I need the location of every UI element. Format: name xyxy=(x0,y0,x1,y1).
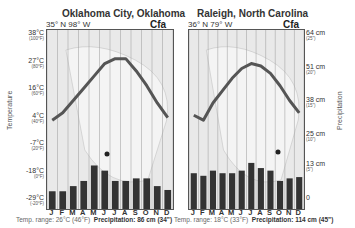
precipitation-tick: 25 cm(10") xyxy=(306,130,325,142)
coordinates: 36° N 79° W xyxy=(188,20,232,29)
precipitation-bar xyxy=(277,181,283,209)
precipitation-bar xyxy=(59,191,66,209)
temperature-tick: 27°C(80°F) xyxy=(14,57,44,69)
precipitation-bar xyxy=(154,186,161,209)
temperature-tick: 38°C(100°F) xyxy=(14,29,44,41)
precipitation-bar xyxy=(296,177,302,209)
precipitation-bar xyxy=(112,181,119,209)
temperature-axis-label: Temperature xyxy=(6,91,13,130)
plot-svg xyxy=(189,30,304,209)
temperature-tick: -29°C(-20°F) xyxy=(14,194,44,206)
precipitation-bar xyxy=(191,173,197,209)
precipitation-bar xyxy=(200,176,206,209)
chart-title: Raleigh, North Carolina xyxy=(197,8,308,19)
city-marker xyxy=(105,152,110,157)
precipitation-bar xyxy=(91,165,98,209)
temp-range-label: Temp. range: 26°C (46°F) Precipitation: … xyxy=(16,216,172,223)
precipitation-bar xyxy=(80,181,87,209)
plot-area xyxy=(46,29,174,210)
precipitation-bar xyxy=(143,178,150,209)
precipitation-bar xyxy=(164,190,171,209)
precipitation-bar xyxy=(248,163,254,209)
precipitation-total: Precipitation: 86 cm (34") xyxy=(94,216,172,223)
precipitation-bar xyxy=(70,186,77,209)
precipitation-bar xyxy=(229,173,235,209)
temperature-tick: 4°C(40°F) xyxy=(14,112,44,124)
plot-svg xyxy=(47,30,173,209)
precipitation-bar xyxy=(267,171,273,209)
plot-area xyxy=(188,29,305,210)
precipitation-bar xyxy=(258,168,264,209)
precipitation-bar xyxy=(219,173,225,209)
city-marker xyxy=(276,150,281,155)
precipitation-bar xyxy=(287,178,293,209)
precipitation-tick: 13 cm(5") xyxy=(306,160,325,172)
temperature-tick: -18°C(0°F) xyxy=(14,167,44,179)
precipitation-axis-label: Precipitation xyxy=(336,91,343,130)
temperature-tick: -7°C(20°F) xyxy=(14,139,44,151)
precipitation-bar xyxy=(133,178,140,209)
precipitation-bar xyxy=(210,171,216,209)
precipitation-total: Precipitation: 114 cm (45") xyxy=(252,216,333,223)
temperature-tick: 16°C(60°F) xyxy=(14,84,44,96)
chart-title: Oklahoma City, Oklahoma xyxy=(62,8,185,19)
precipitation-tick: 38 cm(15") xyxy=(306,96,325,108)
precipitation-tick: 0 xyxy=(306,194,310,201)
coordinates: 35° N 98° W xyxy=(46,20,90,29)
precipitation-tick: 51 cm(20") xyxy=(306,63,325,75)
precipitation-bar xyxy=(101,171,108,209)
precipitation-tick: 64 cm(25") xyxy=(306,29,325,41)
precipitation-bar xyxy=(239,171,245,209)
precipitation-bar xyxy=(122,181,129,209)
temp-range-label: Temp. range: 18°C (33°F) Precipitation: … xyxy=(174,216,333,223)
precipitation-bar xyxy=(49,191,56,209)
